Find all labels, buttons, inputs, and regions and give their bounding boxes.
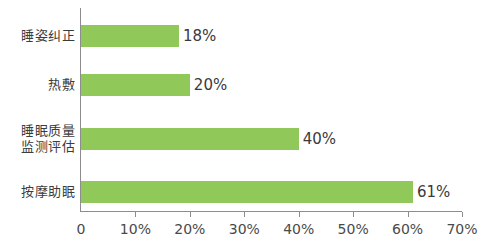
x-axis-tick-label: 70%	[446, 221, 477, 237]
x-axis-tick-label: 60%	[392, 221, 423, 237]
x-axis-tick-mark	[408, 212, 409, 217]
bar	[81, 128, 299, 150]
bar	[81, 181, 413, 203]
x-axis-tick-mark	[353, 212, 354, 217]
x-axis-tick-label: 30%	[229, 221, 260, 237]
x-axis-tick-label: 0	[77, 221, 86, 237]
bar	[81, 25, 179, 47]
bar-value-label: 18%	[183, 29, 216, 44]
category-label: 睡眠质量 监测评估	[21, 123, 75, 155]
category-label: 按摩助眠	[21, 184, 75, 200]
x-axis-line	[80, 211, 462, 212]
x-axis-tick-label: 10%	[120, 221, 151, 237]
x-axis-tick-label: 50%	[338, 221, 369, 237]
bar	[81, 74, 190, 96]
x-axis-tick-mark	[190, 212, 191, 217]
bar-value-label: 20%	[194, 78, 227, 93]
x-axis-tick-mark	[135, 212, 136, 217]
x-axis-tick-mark	[299, 212, 300, 217]
x-axis-tick-mark	[244, 212, 245, 217]
y-axis-line	[80, 8, 81, 211]
category-label: 睡姿纠正	[21, 28, 75, 44]
x-axis-tick-mark	[462, 212, 463, 217]
x-axis-tick-label: 20%	[174, 221, 205, 237]
bar-chart: 睡姿纠正 热敷 睡眠质量 监测评估 按摩助眠 18% 20% 40% 61% 0…	[0, 0, 482, 242]
bar-value-label: 61%	[417, 185, 450, 200]
category-label: 热敷	[48, 77, 75, 93]
x-axis-tick-label: 40%	[283, 221, 314, 237]
bar-value-label: 40%	[303, 132, 336, 147]
